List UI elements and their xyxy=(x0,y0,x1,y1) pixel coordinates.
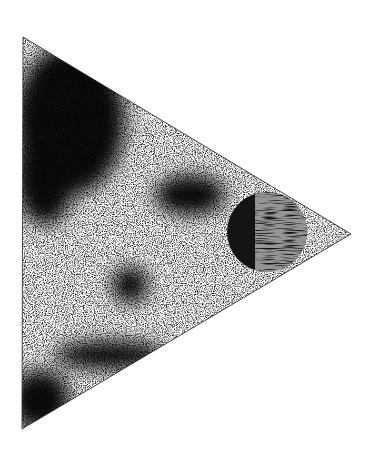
triangle-artwork xyxy=(0,0,378,463)
